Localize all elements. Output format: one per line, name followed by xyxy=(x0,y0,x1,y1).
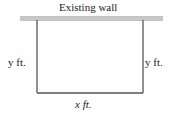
bottom-side-label: x ft. xyxy=(75,98,92,110)
existing-wall xyxy=(20,17,163,20)
left-side-label: y ft. xyxy=(8,56,26,68)
wall-label: Existing wall xyxy=(59,1,117,13)
right-side-label: y ft. xyxy=(145,56,163,68)
